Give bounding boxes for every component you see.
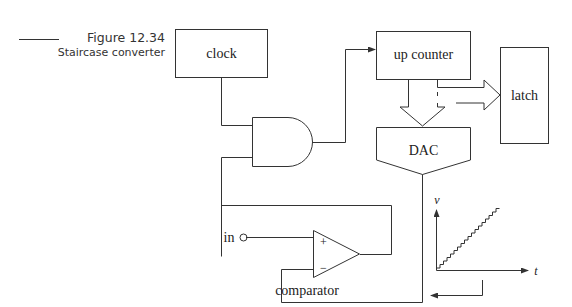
graph-x-label: t (534, 264, 538, 278)
input-terminal (240, 234, 247, 241)
bus-counter-to-latch (438, 80, 501, 111)
staircase-waveform (437, 209, 500, 271)
wire-clock-to-and (222, 78, 253, 126)
staircase-converter-diagram: clock up counter latch DAC comparator + … (0, 0, 572, 307)
input-label: in (224, 230, 235, 245)
comparator-minus-sign: − (320, 261, 327, 275)
wire-and-to-counter (312, 50, 375, 143)
bus-counter-to-dac (400, 80, 445, 127)
latch-label: latch (511, 88, 538, 103)
and-gate (253, 118, 313, 167)
wire-comparator-to-and (222, 206, 392, 255)
dac-label: DAC (409, 143, 439, 158)
up-counter-label: up counter (394, 47, 454, 62)
comparator-label: comparator (275, 283, 339, 298)
graph-return-arrow (431, 280, 483, 296)
comparator-plus-sign: + (320, 235, 327, 249)
clock-label: clock (206, 46, 236, 61)
graph-y-label: v (434, 193, 440, 207)
